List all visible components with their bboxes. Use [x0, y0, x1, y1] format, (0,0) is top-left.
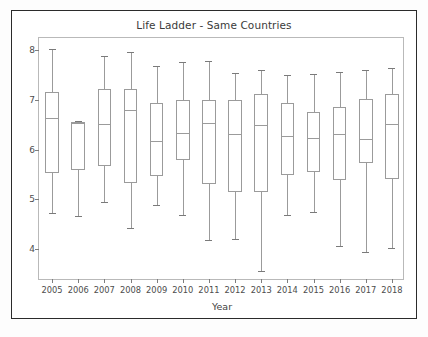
- median-line: [150, 141, 164, 142]
- box-iqr: [281, 103, 295, 175]
- x-axis-tick-mark: [392, 279, 393, 283]
- box-iqr: [150, 103, 164, 176]
- median-line: [254, 125, 268, 126]
- whisker-cap-lower: [153, 205, 160, 206]
- x-axis-label: Year: [39, 301, 405, 312]
- x-axis-tick-mark: [104, 279, 105, 283]
- y-axis-tick-mark: [35, 150, 39, 151]
- whisker-cap-lower: [127, 228, 134, 229]
- whisker-cap-upper: [101, 56, 108, 57]
- whisker-cap-lower: [310, 212, 317, 213]
- median-line: [124, 110, 138, 111]
- whisker-cap-upper: [388, 68, 395, 69]
- whisker-upper: [340, 72, 341, 107]
- whisker-cap-upper: [179, 62, 186, 63]
- whisker-lower: [340, 180, 341, 245]
- y-axis-tick-label: 8: [19, 45, 35, 55]
- plot-inner: [39, 38, 403, 279]
- whisker-upper: [104, 56, 105, 88]
- whisker-cap-upper: [362, 70, 369, 71]
- y-axis-tick-mark: [35, 249, 39, 250]
- median-line: [98, 124, 112, 125]
- box-iqr: [307, 112, 321, 173]
- median-line: [71, 123, 85, 124]
- whisker-lower: [314, 172, 315, 211]
- whisker-cap-upper: [310, 74, 317, 75]
- box-iqr: [254, 94, 268, 192]
- whisker-cap-upper: [336, 72, 343, 73]
- y-axis-tick-mark: [35, 100, 39, 101]
- whisker-cap-upper: [232, 73, 239, 74]
- whisker-cap-upper: [153, 66, 160, 67]
- x-axis-tick-mark: [340, 279, 341, 283]
- median-line: [359, 139, 373, 140]
- median-line: [45, 118, 59, 119]
- whisker-upper: [235, 73, 236, 100]
- whisker-cap-lower: [49, 213, 56, 214]
- box-iqr: [359, 99, 373, 163]
- x-axis-tick-label: 2014: [277, 285, 298, 295]
- x-axis-tick-label: 2009: [146, 285, 167, 295]
- box-iqr: [71, 122, 85, 171]
- y-axis-tick-label: 7: [19, 95, 35, 105]
- x-axis-tick-mark: [261, 279, 262, 283]
- whisker-upper: [287, 75, 288, 103]
- chart-title: Life Ladder - Same Countries: [0, 19, 428, 31]
- x-axis-tick-label: 2010: [172, 285, 193, 295]
- box-iqr: [176, 100, 190, 160]
- whisker-upper: [314, 74, 315, 112]
- whisker-lower: [366, 163, 367, 252]
- whisker-upper: [261, 70, 262, 93]
- x-axis-tick-label: 2006: [68, 285, 89, 295]
- x-axis-tick-mark: [157, 279, 158, 283]
- box-iqr: [385, 94, 399, 179]
- x-axis-tick-label: 2013: [251, 285, 272, 295]
- median-line: [176, 133, 190, 134]
- median-line: [281, 136, 295, 137]
- x-axis-tick-mark: [287, 279, 288, 283]
- median-line: [202, 123, 216, 124]
- plot-axes-area: Year 45678200520062007200820092010201120…: [38, 37, 404, 280]
- whisker-lower: [104, 166, 105, 201]
- x-axis-tick-mark: [314, 279, 315, 283]
- box-iqr: [124, 89, 138, 184]
- x-axis-tick-label: 2012: [225, 285, 246, 295]
- box-iqr: [228, 100, 242, 192]
- median-line: [228, 134, 242, 135]
- whisker-cap-lower: [232, 239, 239, 240]
- x-axis-tick-mark: [131, 279, 132, 283]
- y-axis-tick-label: 5: [19, 194, 35, 204]
- whisker-lower: [235, 192, 236, 239]
- whisker-upper: [392, 68, 393, 93]
- x-axis-tick-label: 2005: [42, 285, 63, 295]
- median-line: [333, 134, 347, 135]
- x-axis-tick-label: 2016: [329, 285, 350, 295]
- x-axis-tick-label: 2015: [303, 285, 324, 295]
- x-axis-tick-label: 2008: [120, 285, 141, 295]
- whisker-upper: [131, 52, 132, 89]
- whisker-cap-upper: [49, 49, 56, 50]
- median-line: [385, 124, 399, 125]
- whisker-cap-lower: [205, 240, 212, 241]
- x-axis-tick-label: 2011: [198, 285, 219, 295]
- whisker-lower: [392, 179, 393, 248]
- x-axis-tick-label: 2007: [94, 285, 115, 295]
- whisker-cap-lower: [101, 202, 108, 203]
- y-axis-tick-label: 4: [19, 244, 35, 254]
- whisker-cap-lower: [179, 215, 186, 216]
- y-axis-tick-mark: [35, 50, 39, 51]
- x-axis-tick-mark: [209, 279, 210, 283]
- whisker-upper: [366, 70, 367, 99]
- whisker-lower: [131, 183, 132, 228]
- whisker-lower: [209, 184, 210, 240]
- y-axis-tick-mark: [35, 199, 39, 200]
- whisker-cap-upper: [127, 52, 134, 53]
- whisker-cap-lower: [284, 215, 291, 216]
- x-axis-tick-mark: [183, 279, 184, 283]
- whisker-lower: [287, 175, 288, 215]
- x-axis-tick-mark: [366, 279, 367, 283]
- whisker-upper: [157, 66, 158, 103]
- x-axis-tick-label: 2018: [381, 285, 402, 295]
- whisker-lower: [157, 176, 158, 204]
- whisker-cap-upper: [205, 61, 212, 62]
